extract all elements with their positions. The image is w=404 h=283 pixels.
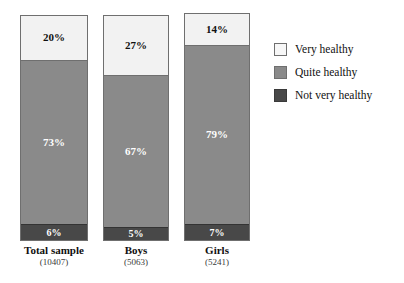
legend-item-not-very-healthy[interactable]: Not very healthy [274, 84, 404, 107]
bar-segment-quite-healthy[interactable]: 67% [104, 76, 168, 226]
segment-value-label: 79% [206, 129, 228, 140]
very-healthy-swatch-icon [274, 43, 287, 56]
segment-value-label: 14% [206, 24, 228, 35]
category-label-group: Boys (5063) [103, 241, 169, 267]
bar-segment-very-healthy[interactable]: 20% [21, 16, 87, 61]
bar-segment-very-healthy[interactable]: 27% [104, 16, 168, 76]
category-count: (10407) [20, 257, 88, 268]
bar-segment-not-very-healthy[interactable]: 7% [185, 224, 249, 240]
category-name: Boys [103, 244, 169, 257]
bar-stack[interactable]: 20% 73% 6% [20, 15, 88, 241]
bar-group-total-sample: 20% 73% 6% Total sample (10407) [20, 15, 88, 241]
bar-segment-very-healthy[interactable]: 14% [185, 14, 249, 46]
bar-segment-quite-healthy[interactable]: 73% [21, 61, 87, 225]
category-label-group: Total sample (10407) [20, 241, 88, 267]
plot-area: 20% 73% 6% Total sample (10407) 27% [0, 0, 262, 283]
segment-value-label: 73% [43, 137, 65, 148]
category-name: Girls [184, 244, 250, 257]
category-count: (5063) [103, 257, 169, 268]
legend-label: Quite healthy [295, 67, 357, 79]
segment-value-label: 6% [47, 228, 62, 238]
segment-value-label: 5% [129, 229, 144, 239]
segment-value-label: 20% [43, 32, 65, 43]
bar-segment-quite-healthy[interactable]: 79% [185, 46, 249, 225]
legend-item-quite-healthy[interactable]: Quite healthy [274, 61, 404, 84]
legend-item-very-healthy[interactable]: Very healthy [274, 38, 404, 61]
category-name: Total sample [20, 244, 88, 257]
category-label-group: Girls (5241) [184, 241, 250, 267]
quite-healthy-swatch-icon [274, 66, 287, 79]
legend-label: Not very healthy [295, 90, 372, 102]
bar-group-boys: 27% 67% 5% Boys (5063) [103, 15, 169, 241]
bar-segment-not-very-healthy[interactable]: 6% [21, 224, 87, 240]
chart-legend: Very healthy Quite healthy Not very heal… [274, 38, 404, 107]
bar-stack[interactable]: 14% 79% 7% [184, 13, 250, 241]
segment-value-label: 7% [210, 228, 225, 238]
segment-value-label: 27% [125, 40, 147, 51]
not-very-healthy-swatch-icon [274, 89, 287, 102]
stacked-bar-chart: 20% 73% 6% Total sample (10407) 27% [0, 0, 404, 283]
bar-segment-not-very-healthy[interactable]: 5% [104, 227, 168, 240]
category-count: (5241) [184, 257, 250, 268]
bar-stack[interactable]: 27% 67% 5% [103, 15, 169, 241]
bar-group-girls: 14% 79% 7% Girls (5241) [184, 13, 250, 241]
segment-value-label: 67% [125, 146, 147, 157]
legend-label: Very healthy [295, 44, 353, 56]
